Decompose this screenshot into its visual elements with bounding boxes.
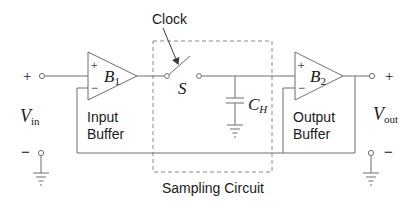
clock-arrow-icon — [163, 28, 178, 64]
switch-label: S — [178, 79, 187, 98]
output-minus-sign: − — [384, 143, 393, 160]
b1-plus-input: + — [91, 59, 97, 71]
output-voltage-label: Vout — [373, 104, 398, 125]
sampling-circuit-label: Sampling Circuit — [162, 180, 264, 196]
input-voltage-label: Vin — [20, 106, 40, 127]
b2-plus-input: + — [298, 59, 304, 71]
capacitor-label: CH — [248, 95, 268, 115]
ground-icon-output — [363, 173, 379, 185]
hold-capacitor — [226, 76, 244, 125]
b1-minus-input: − — [91, 81, 98, 95]
clock-label: Clock — [152, 11, 188, 27]
input-buffer-caption: Input Buffer — [87, 109, 124, 142]
sampling-switch — [165, 56, 202, 78]
input-terminal-negative — [38, 150, 43, 173]
output-buffer-caption: Output Buffer — [293, 109, 339, 142]
input-terminal-positive — [39, 73, 88, 78]
ground-icon-input — [33, 173, 49, 185]
output-terminal-positive — [343, 73, 375, 78]
b2-minus-input: − — [298, 81, 305, 95]
output-plus-sign: + — [384, 68, 394, 84]
sample-and-hold-diagram: + Vin − + − B1 Input Buffer S Clock — [0, 0, 412, 208]
input-plus-sign: + — [22, 68, 32, 84]
ground-icon-capacitor — [227, 125, 243, 137]
output-terminal-negative — [368, 150, 373, 173]
input-minus-sign: − — [21, 143, 30, 160]
